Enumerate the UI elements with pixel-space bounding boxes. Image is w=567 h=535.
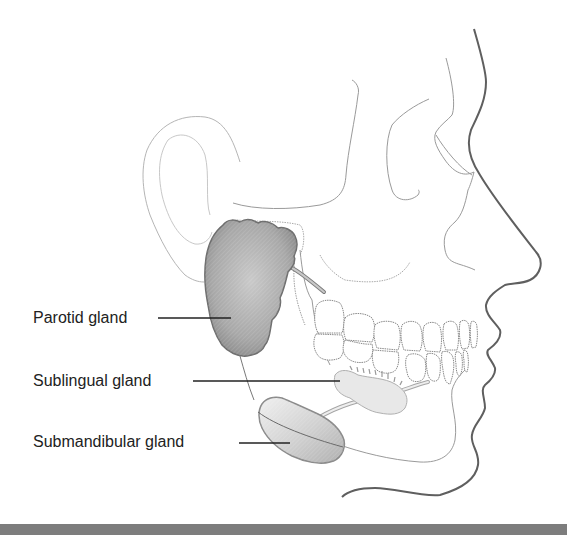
- nasal-bone: [435, 58, 474, 190]
- label-parotid-gland: Parotid gland: [33, 309, 127, 327]
- neck-line: [355, 465, 478, 502]
- bottom-divider-bar: [0, 524, 567, 535]
- submandibular-gland-shape: [258, 397, 344, 463]
- face-profile: [342, 29, 541, 497]
- label-sublingual-gland: Sublingual gland: [33, 372, 151, 390]
- parotid-gland-shape: [205, 219, 297, 356]
- label-submandibular-gland: Submandibular gland: [33, 433, 184, 451]
- maxilla-outline: [444, 190, 475, 270]
- ear-inner: [160, 135, 212, 244]
- orbit-outline: [387, 99, 429, 200]
- angle-line: [240, 356, 254, 400]
- zygomatic-line: [233, 80, 359, 209]
- salivary-gland-diagram: [0, 0, 567, 535]
